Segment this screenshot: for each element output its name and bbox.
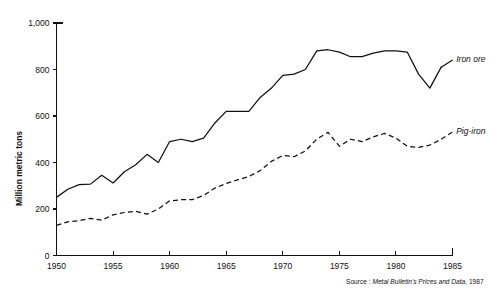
y-tick-label-800: 800 — [35, 65, 49, 75]
x-tick-label-1985: 1985 — [443, 261, 462, 271]
source-note: Source : Metal Bulletin's Prices and Dat… — [346, 278, 484, 285]
series-line-iron-ore — [57, 50, 442, 198]
x-tick-label-1960: 1960 — [160, 261, 179, 271]
y-tick-label-0: 0 — [45, 251, 50, 261]
x-tick-label-1975: 1975 — [330, 261, 349, 271]
y-tick-label-1000: 1,000 — [28, 18, 50, 28]
series-label-iron-ore: Iron ore — [456, 54, 486, 64]
series-line-pig-iron — [57, 132, 442, 225]
source-publication: Metal Bulletin's Prices and Data — [372, 278, 465, 285]
series-leader-iron-ore — [441, 60, 452, 67]
chart-figure: 02004006008001,000 195019551960196519701… — [0, 0, 501, 300]
source-prefix: Source : — [346, 278, 372, 285]
x-axis-ticks: 19501955196019651970197519801985 — [47, 251, 462, 271]
x-tick-label-1980: 1980 — [386, 261, 405, 271]
x-tick-label-1965: 1965 — [217, 261, 236, 271]
line-chart: 02004006008001,000 195019551960196519701… — [0, 0, 501, 300]
y-tick-label-400: 400 — [35, 158, 49, 168]
series-inline-labels: Iron orePig-iron — [456, 54, 486, 136]
x-tick-label-1955: 1955 — [104, 261, 123, 271]
chart-axes — [57, 23, 453, 256]
y-axis-ticks: 02004006008001,000 — [28, 18, 56, 261]
y-tick-label-200: 200 — [35, 204, 49, 214]
y-tick-label-600: 600 — [35, 111, 49, 121]
chart-series — [57, 50, 453, 226]
series-label-pig-iron: Pig-iron — [456, 126, 486, 136]
series-leader-pig-iron — [441, 132, 452, 139]
source-suffix: , 1987 — [465, 278, 484, 285]
x-tick-label-1950: 1950 — [47, 261, 66, 271]
x-tick-label-1970: 1970 — [273, 261, 292, 271]
y-axis-title: Million metric tons — [14, 131, 24, 206]
